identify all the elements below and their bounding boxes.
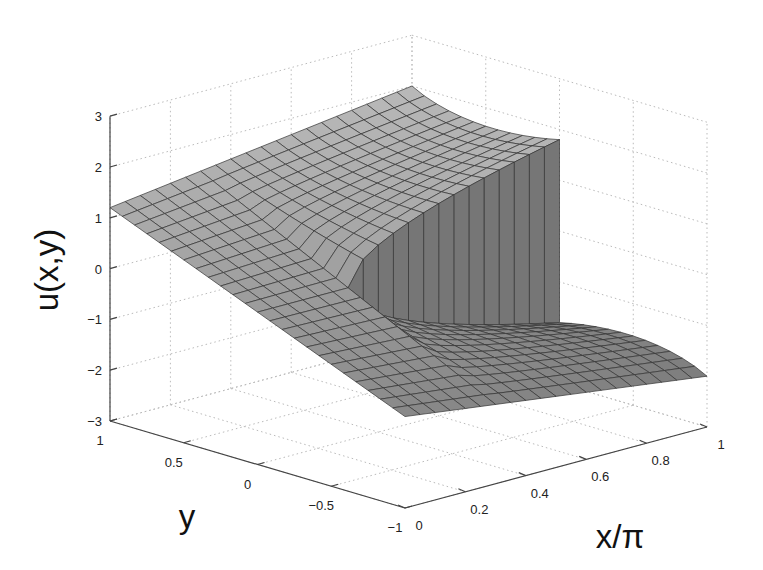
x-tick-label: 0.2 xyxy=(470,502,488,517)
y-tick-label: 1 xyxy=(96,433,103,448)
surface-plot: 3210−1−2−3 10.50−0.5−1 00.20.40.60.81 u(… xyxy=(0,0,763,570)
z-tick-label: 0 xyxy=(95,262,102,277)
z-tick-label: 3 xyxy=(95,109,102,124)
y-tick-label: 0.5 xyxy=(165,455,183,470)
y-tick-label: 0 xyxy=(244,477,251,492)
y-axis-label: y xyxy=(179,498,196,535)
x-tick-label: 0 xyxy=(415,518,422,533)
x-tick-label: 0.8 xyxy=(652,453,670,468)
y-axis-ticks: 10.50−0.5−1 xyxy=(96,419,412,535)
y-tick-label: −0.5 xyxy=(308,498,334,513)
surface-mesh xyxy=(110,86,707,417)
x-tick-label: 0.4 xyxy=(531,486,549,501)
z-tick-label: −2 xyxy=(87,363,102,378)
z-axis-ticks: 3210−1−2−3 xyxy=(87,109,117,429)
z-axis-label: u(x,y) xyxy=(28,229,65,312)
x-axis-label: x/π xyxy=(596,518,644,555)
z-tick-label: −1 xyxy=(87,312,102,327)
z-tick-label: −3 xyxy=(87,414,102,429)
z-tick-label: 1 xyxy=(95,211,102,226)
y-tick-label: −1 xyxy=(388,520,403,535)
x-tick-label: 1 xyxy=(717,437,724,452)
z-tick-label: 2 xyxy=(95,160,102,175)
x-tick-label: 0.6 xyxy=(591,469,609,484)
x-axis-ticks: 00.20.40.60.81 xyxy=(398,424,725,533)
